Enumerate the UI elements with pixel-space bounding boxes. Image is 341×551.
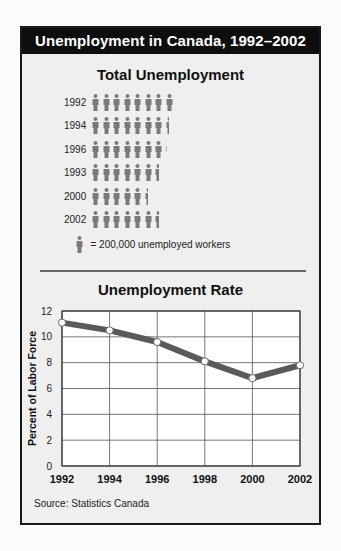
infographic-frame: Unemployment in Canada, 1992–2002 Total … (20, 26, 321, 525)
y-tick-label: 4 (46, 409, 52, 420)
data-point-marker (296, 362, 303, 369)
y-tick-label: 0 (46, 461, 52, 472)
data-point-marker (106, 327, 113, 334)
data-point-marker (249, 375, 256, 382)
x-tick-label: 1996 (145, 473, 169, 485)
data-point-marker (154, 338, 161, 345)
y-tick-label: 2 (46, 435, 52, 446)
x-tick-label: 2002 (288, 473, 312, 485)
y-tick-label: 6 (46, 383, 52, 394)
y-axis-title: Percent of Labor Force (26, 331, 38, 446)
data-point-marker (201, 358, 208, 365)
y-tick-label: 8 (46, 357, 52, 368)
x-tick-label: 1992 (50, 473, 74, 485)
source-note: Source: Statistics Canada (34, 498, 149, 509)
x-tick-label: 1994 (97, 473, 122, 485)
y-tick-label: 10 (41, 331, 53, 342)
x-tick-label: 1998 (193, 473, 217, 485)
data-point-marker (58, 319, 65, 326)
x-tick-label: 2000 (240, 473, 264, 485)
y-tick-label: 12 (41, 306, 53, 317)
line-chart: 024681012199219941996199820002002Percent… (22, 28, 319, 523)
